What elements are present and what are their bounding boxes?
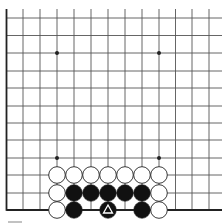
white-stone [49, 167, 66, 184]
black-stone [66, 202, 83, 219]
white-stone [151, 167, 168, 184]
black-stone [66, 185, 83, 202]
white-stone [134, 167, 151, 184]
black-stone [83, 185, 100, 202]
star-point-icon [55, 156, 59, 160]
go-board-diagram [0, 0, 222, 224]
star-point-icon [157, 51, 161, 55]
white-stone [100, 167, 117, 184]
white-stone [151, 202, 168, 219]
black-stone [134, 185, 151, 202]
black-stone [100, 185, 117, 202]
white-stone [49, 202, 66, 219]
white-stone [117, 167, 134, 184]
stones-layer [49, 167, 168, 219]
black-stone [117, 185, 134, 202]
white-stone [49, 185, 66, 202]
cropped-caption-fragment [8, 221, 22, 223]
white-stone [151, 185, 168, 202]
star-point-icon [157, 156, 161, 160]
white-stone [83, 167, 100, 184]
black-stone [134, 202, 151, 219]
star-point-icon [55, 51, 59, 55]
white-stone [66, 167, 83, 184]
